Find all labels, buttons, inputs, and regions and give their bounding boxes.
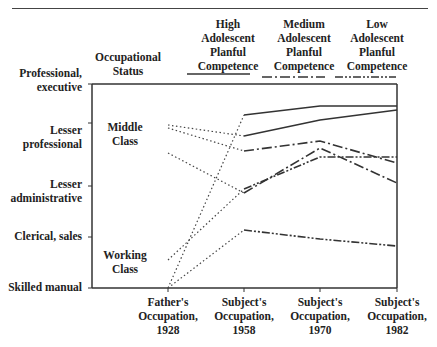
series-medium-1 — [244, 141, 397, 163]
series-low-2 — [244, 230, 397, 246]
chart-canvas — [0, 0, 437, 347]
series-high-2 — [244, 110, 397, 136]
series-medium-2 — [244, 148, 397, 193]
father-origin-dotted-lines — [168, 115, 244, 288]
